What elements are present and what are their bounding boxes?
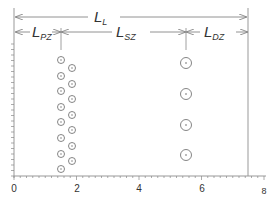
L-L-label: LL — [94, 8, 107, 27]
well — [58, 135, 65, 142]
x-axis-ticks — [14, 176, 264, 180]
well — [69, 81, 76, 88]
well — [181, 150, 192, 161]
x-tick-label-4: 4 — [136, 183, 142, 194]
well — [181, 89, 192, 100]
well — [69, 127, 76, 134]
well — [58, 104, 65, 111]
well — [58, 166, 65, 173]
well — [58, 151, 65, 158]
well — [69, 158, 76, 165]
x-tick-label-6: 6 — [199, 183, 205, 194]
well — [58, 57, 65, 64]
well — [69, 143, 76, 150]
x-tick-label-8: 8 — [261, 186, 266, 196]
L-SZ-label: LSZ — [116, 23, 136, 42]
well — [181, 58, 192, 69]
x-tick-label-2: 2 — [74, 183, 80, 194]
x-tick-label-0: 0 — [11, 183, 17, 194]
well — [58, 73, 65, 80]
well — [58, 88, 65, 95]
L-DZ-label: LDZ — [204, 23, 225, 42]
x-axis-labels: 0 2 4 6 8 — [11, 183, 266, 196]
L-PZ-label: LPZ — [32, 23, 52, 42]
well — [58, 119, 65, 126]
well — [69, 112, 76, 119]
well-column-2 — [69, 65, 76, 165]
well-column-3 — [181, 58, 192, 161]
zone-diagram: LL LPZ LSZ LDZ 0 2 4 6 8 — [0, 0, 276, 203]
well — [69, 96, 76, 103]
well — [181, 120, 192, 131]
well — [69, 65, 76, 72]
well-column-1 — [58, 57, 65, 173]
